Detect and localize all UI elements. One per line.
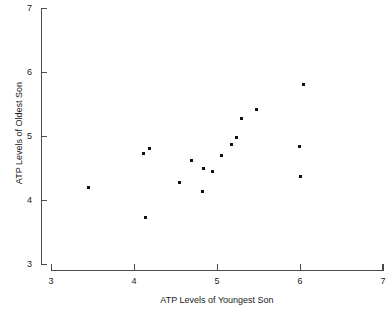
data-point: [202, 167, 205, 170]
data-point: [230, 143, 233, 146]
data-point: [211, 170, 214, 173]
data-point: [298, 145, 301, 148]
data-point: [142, 152, 145, 155]
data-point: [240, 117, 243, 120]
x-axis-title: ATP Levels of Youngest Son: [51, 295, 383, 305]
data-point: [148, 147, 151, 150]
data-point: [190, 159, 193, 162]
data-point: [178, 181, 181, 184]
data-points-layer: [0, 0, 391, 316]
data-point: [299, 175, 302, 178]
y-axis-title: ATP Levels of Oldest Son: [14, 53, 24, 213]
scatter-plot: 34567 34567 ATP Levels of Youngest Son A…: [0, 0, 391, 316]
data-point: [255, 108, 258, 111]
data-point: [144, 216, 147, 219]
data-point: [87, 186, 90, 189]
data-point: [235, 136, 238, 139]
data-point: [302, 83, 305, 86]
data-point: [220, 154, 223, 157]
data-point: [201, 190, 204, 193]
